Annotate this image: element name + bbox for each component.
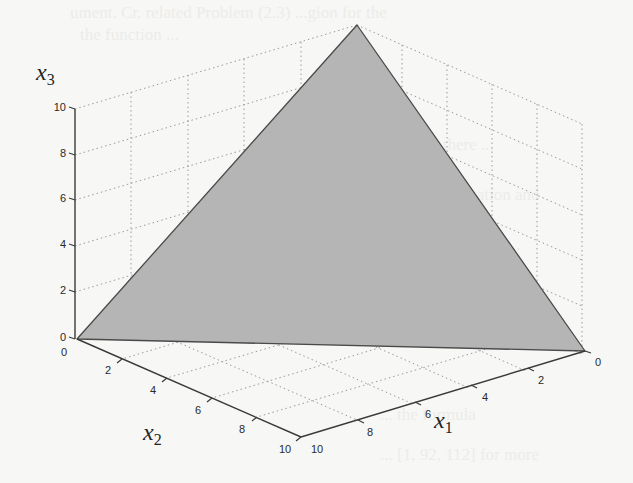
x2-tick-0: 0 bbox=[61, 346, 67, 358]
x2-tick-10: 10 bbox=[279, 443, 291, 455]
x3-tick-0: 0 bbox=[60, 331, 66, 343]
x1-tick-6: 6 bbox=[425, 408, 431, 420]
x3-axis-title: x3 bbox=[35, 59, 55, 88]
x1-axis: 0 2 4 6 8 10 bbox=[301, 351, 601, 455]
x2-axis: 0 2 4 6 8 10 bbox=[61, 339, 301, 455]
x1-tick-2: 2 bbox=[538, 374, 544, 386]
x3-tick-2: 2 bbox=[60, 284, 66, 296]
svg-text:... [1, 92, 112] for more: ... [1, 92, 112] for more bbox=[380, 445, 539, 464]
x3-tick-8: 8 bbox=[60, 147, 66, 159]
x2-tick-8: 8 bbox=[239, 423, 245, 435]
x3-tick-4: 4 bbox=[60, 238, 66, 250]
x1-tick-10: 10 bbox=[311, 443, 323, 455]
x1-tick-0: 0 bbox=[595, 356, 601, 368]
x1-tick-8: 8 bbox=[367, 426, 373, 438]
x2-tick-2: 2 bbox=[105, 364, 111, 376]
plane-3d-figure: ument. Cr. related Problem (2.3) ...gion… bbox=[0, 0, 633, 483]
x2-tick-4: 4 bbox=[150, 384, 156, 396]
x2-axis-title: x2 bbox=[142, 419, 162, 448]
x2-tick-6: 6 bbox=[195, 404, 201, 416]
x1-tick-4: 4 bbox=[482, 391, 488, 403]
svg-text:ument. Cr. related Problem (2.: ument. Cr. related Problem (2.3) ...gion… bbox=[70, 3, 387, 22]
x3-tick-6: 6 bbox=[60, 192, 66, 204]
x3-axis: 10 8 6 4 2 0 bbox=[54, 101, 75, 343]
svg-text:the function ...: the function ... bbox=[80, 25, 179, 44]
x3-tick-10: 10 bbox=[54, 101, 66, 113]
